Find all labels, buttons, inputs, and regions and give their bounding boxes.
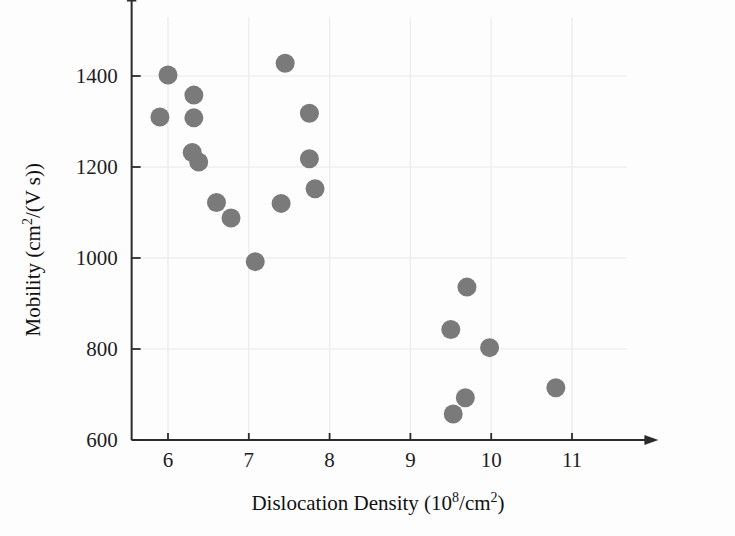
y-tick-label: 600	[86, 428, 118, 452]
data-point	[159, 66, 178, 85]
y-tick-label: 800	[86, 337, 118, 361]
data-point	[300, 104, 319, 123]
gridlines-group	[132, 18, 627, 440]
tick-labels-group: 67891011600800100012001400	[76, 64, 582, 472]
y-axis-arrow	[127, 0, 137, 2]
x-tick-label: 7	[244, 448, 255, 472]
data-point	[276, 54, 295, 73]
x-tick-label: 10	[481, 448, 502, 472]
chart-page: 67891011600800100012001400 Dislocation D…	[0, 0, 735, 536]
x-axis-title: Dislocation Density (108/cm2)	[251, 490, 504, 515]
y-tick-label: 1200	[76, 155, 118, 179]
y-tick-label: 1400	[76, 64, 118, 88]
data-point	[546, 378, 565, 397]
data-point	[184, 108, 203, 127]
data-point	[184, 86, 203, 105]
x-tick-label: 9	[405, 448, 416, 472]
data-point	[246, 252, 265, 271]
y-tick-label: 1000	[76, 246, 118, 270]
x-tick-label: 6	[163, 448, 174, 472]
axes-group	[127, 0, 659, 445]
data-point	[306, 179, 325, 198]
scatter-plot: 67891011600800100012001400 Dislocation D…	[0, 0, 735, 536]
x-tick-label: 8	[324, 448, 335, 472]
data-points-group	[150, 54, 565, 424]
data-point	[457, 278, 476, 297]
data-point	[222, 208, 241, 227]
data-point	[272, 194, 291, 213]
data-point	[444, 405, 463, 424]
data-point	[150, 107, 169, 126]
data-point	[207, 193, 226, 212]
x-axis-arrow	[644, 435, 658, 445]
data-point	[480, 338, 499, 357]
y-axis-title: Mobility (cm2/(V s))	[20, 163, 45, 336]
data-point	[189, 152, 208, 171]
x-tick-label: 11	[562, 448, 582, 472]
data-point	[456, 388, 475, 407]
data-point	[300, 149, 319, 168]
data-point	[441, 320, 460, 339]
